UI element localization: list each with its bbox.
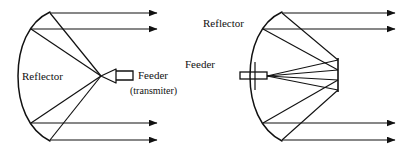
figure-root: Reflector Feeder (transmiter) <box>0 0 408 152</box>
label-reflector-left: Reflector <box>22 70 63 82</box>
label-feeder-sublabel-left: (transmiter) <box>130 85 177 97</box>
label-feeder-left: Feeder <box>138 69 168 81</box>
label-reflector-right: Reflector <box>203 17 244 29</box>
antenna-diagram-svg: Reflector Feeder (transmiter) <box>0 0 408 152</box>
label-feeder-right: Feeder <box>185 58 215 70</box>
